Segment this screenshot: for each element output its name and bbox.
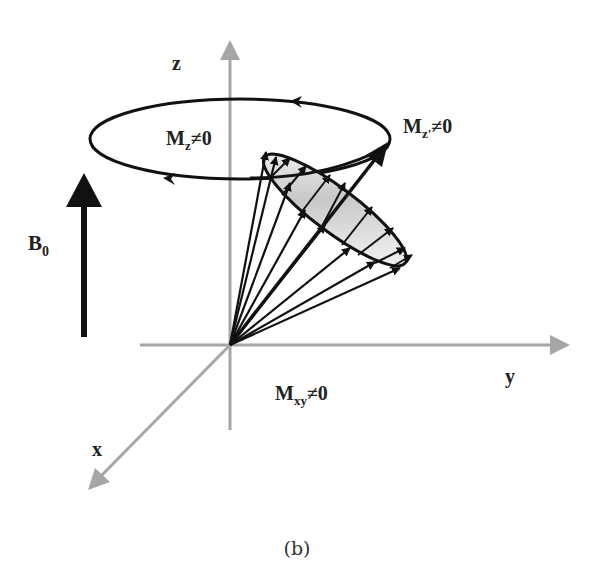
y-axis-label: y bbox=[505, 365, 515, 388]
b0-field-arrow bbox=[66, 173, 102, 337]
magnetization-diagram: z y x B0 Mz≠0 Mz'≠0 Mxy≠0 (b) bbox=[0, 0, 595, 585]
precession-orbit bbox=[90, 96, 390, 185]
figure-caption: (b) bbox=[284, 537, 311, 559]
mz-label: Mz≠0 bbox=[166, 127, 212, 153]
mz-prime-label: Mz'≠0 bbox=[403, 115, 452, 141]
mz-prime-arrowhead-icon bbox=[366, 142, 388, 167]
x-axis bbox=[88, 345, 230, 490]
x-axis-label: x bbox=[92, 438, 102, 460]
b0-label: B0 bbox=[28, 231, 49, 259]
mxy-label: Mxy≠0 bbox=[275, 382, 328, 408]
z-axis-label: z bbox=[172, 52, 181, 74]
diagram-canvas: z y x B0 Mz≠0 Mz'≠0 Mxy≠0 (b) bbox=[0, 0, 595, 585]
z-axis-arrowhead-icon bbox=[220, 40, 240, 60]
b0-arrowhead-icon bbox=[66, 173, 102, 207]
y-axis-arrowhead-icon bbox=[550, 335, 570, 355]
y-axis bbox=[140, 335, 570, 355]
